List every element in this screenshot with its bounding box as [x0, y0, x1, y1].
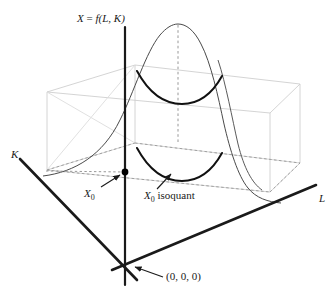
surface-title-eq: = — [84, 12, 96, 24]
isoquant-label-word: isoquant — [155, 189, 195, 201]
box-diagonal-b — [47, 65, 135, 170]
base-plane-dashed-lines — [47, 143, 300, 192]
box-bottom-face — [47, 143, 300, 192]
x0-level-line — [46, 171, 125, 172]
figure-canvas — [0, 0, 334, 303]
l-axis-label: L — [319, 193, 325, 204]
surface-title-lhs: X — [77, 12, 84, 24]
production-function-figure: X = f(L, K) K L X0 X0 isoquant (0, 0, 0) — [0, 0, 334, 303]
x0-point-label: X0 — [84, 188, 95, 202]
origin-arrow — [135, 267, 163, 277]
origin-label: (0, 0, 0) — [166, 271, 201, 282]
surface-right-profile — [178, 24, 281, 203]
surface-left-profile — [43, 24, 178, 176]
x0-point-dot — [122, 169, 129, 176]
isoquant-on-surface — [137, 71, 222, 104]
surface-title-args: (L, K) — [99, 12, 125, 24]
box-top-face — [47, 65, 300, 113]
x0-level-dashed — [46, 171, 125, 172]
reference-box — [47, 65, 300, 192]
k-axis-label: K — [11, 149, 18, 160]
isoquant-label: X0 isoquant — [144, 190, 195, 204]
isoquant-projection — [137, 148, 222, 181]
x0-arrow — [101, 175, 120, 187]
surface-title-label: X = f(L, K) — [77, 13, 125, 24]
dashed-right-base — [270, 163, 300, 192]
isoquant-label-base: X — [144, 189, 151, 201]
x0-point-label-sub: 0 — [91, 193, 95, 202]
x0-point-label-base: X — [84, 187, 91, 199]
l-axis — [112, 185, 316, 270]
